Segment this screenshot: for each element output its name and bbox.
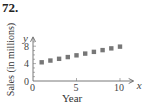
y-tick-label: 0 bbox=[24, 76, 29, 87]
data-point bbox=[83, 51, 87, 55]
data-point bbox=[118, 44, 122, 48]
data-point bbox=[109, 46, 113, 50]
x-tick-label: 5 bbox=[74, 82, 79, 93]
y-tick-label: 8 bbox=[24, 41, 29, 52]
data-point bbox=[48, 58, 52, 62]
data-point bbox=[74, 53, 78, 57]
data-point bbox=[92, 50, 96, 54]
axis-ticks: 0510048 bbox=[24, 41, 124, 93]
data-points bbox=[40, 44, 123, 64]
data-point bbox=[40, 60, 44, 64]
data-point bbox=[66, 55, 70, 59]
data-point bbox=[57, 57, 61, 61]
x-tick-label: 10 bbox=[114, 82, 124, 93]
x-variable: x bbox=[136, 79, 142, 91]
y-tick-label: 4 bbox=[24, 58, 29, 69]
scatter-plot: xy 0510048 bbox=[0, 0, 149, 108]
data-point bbox=[100, 48, 104, 52]
x-tick-label: 0 bbox=[30, 82, 35, 93]
